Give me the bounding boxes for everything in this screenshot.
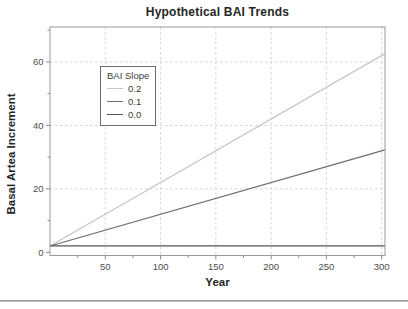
bai-trends-figure: Hypothetical BAI Trends Basal Artea Incr… bbox=[0, 0, 408, 309]
legend-item-label: 0.2 bbox=[128, 83, 141, 94]
legend-title: BAI Slope bbox=[107, 70, 149, 81]
svg-text:0: 0 bbox=[38, 247, 43, 258]
legend: BAI Slope 0.2 0.1 0.0 bbox=[100, 66, 156, 126]
plot-area: 501001502002503000204060 bbox=[0, 0, 408, 309]
legend-line-sample bbox=[107, 114, 123, 115]
legend-item-label: 0.1 bbox=[128, 96, 141, 107]
legend-line-sample bbox=[107, 101, 123, 102]
legend-item-slope-0.1: 0.1 bbox=[107, 95, 149, 108]
svg-text:250: 250 bbox=[318, 261, 334, 272]
svg-text:300: 300 bbox=[374, 261, 390, 272]
svg-text:40: 40 bbox=[33, 120, 44, 131]
svg-text:200: 200 bbox=[263, 261, 279, 272]
legend-item-label: 0.0 bbox=[128, 109, 141, 120]
legend-item-slope-0.0: 0.0 bbox=[107, 108, 149, 121]
svg-text:100: 100 bbox=[153, 261, 169, 272]
svg-text:150: 150 bbox=[208, 261, 224, 272]
svg-text:50: 50 bbox=[100, 261, 111, 272]
svg-text:60: 60 bbox=[33, 56, 44, 67]
legend-line-sample bbox=[107, 88, 123, 89]
svg-text:20: 20 bbox=[33, 183, 44, 194]
bottom-divider bbox=[0, 300, 408, 302]
legend-item-slope-0.2: 0.2 bbox=[107, 82, 149, 95]
x-axis-label: Year bbox=[50, 276, 385, 288]
